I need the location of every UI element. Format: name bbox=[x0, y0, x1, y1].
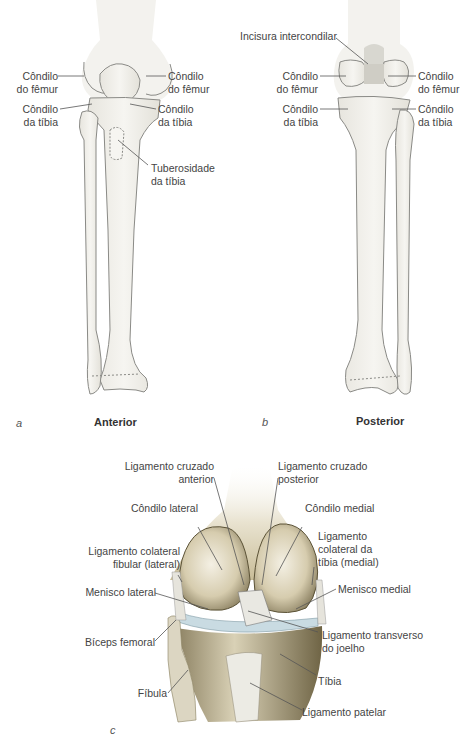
label-lig-cruzado-anterior: Ligamento cruzado anterior bbox=[112, 460, 214, 486]
label-lig-colateral-fibular: Ligamento colateral fibular (lateral) bbox=[60, 545, 180, 571]
anatomy-illustration bbox=[0, 0, 473, 737]
label-condilo-femur-right-a: Côndilo do fêmur bbox=[168, 70, 209, 96]
label-fibula: Fíbula bbox=[110, 687, 167, 700]
label-condilo-tibia-right-a: Côndilo da tíbia bbox=[158, 103, 194, 129]
label-condilo-tibia-left-b: Côndilo da tíbia bbox=[272, 103, 318, 129]
label-biceps-femoral: Bíceps femoral bbox=[60, 636, 155, 649]
label-menisco-lateral: Menisco lateral bbox=[60, 586, 156, 599]
panel-letter-c: c bbox=[110, 724, 116, 736]
label-lig-cruzado-posterior: Ligamento cruzado posterior bbox=[278, 460, 367, 486]
label-condilo-lateral: Côndilo lateral bbox=[110, 502, 198, 515]
label-menisco-medial: Menisco medial bbox=[338, 583, 411, 596]
view-title-anterior: Anterior bbox=[94, 416, 137, 428]
label-condilo-medial: Côndilo medial bbox=[305, 502, 374, 515]
view-title-posterior: Posterior bbox=[356, 415, 404, 427]
panel-letter-a: a bbox=[16, 417, 22, 429]
label-condilo-tibia-left-a: Côndilo da tíbia bbox=[14, 103, 58, 129]
label-tuberosidade: Tuberosidade da tíbia bbox=[151, 162, 215, 188]
label-lig-patelar: Ligamento patelar bbox=[302, 706, 386, 719]
panel-letter-b: b bbox=[262, 416, 268, 428]
label-lig-transverso: Ligamento transverso do joelho bbox=[322, 629, 423, 655]
label-incisura: Incisura intercondilar bbox=[240, 30, 337, 43]
anterior-bones bbox=[79, 0, 172, 394]
label-lig-colateral-tibia: Ligamento colateral da tíbia (medial) bbox=[318, 530, 379, 569]
label-condilo-femur-right-b: Côndilo do fêmur bbox=[418, 70, 459, 96]
label-condilo-femur-left-b: Côndilo do fêmur bbox=[272, 70, 318, 96]
label-condilo-tibia-right-b: Côndilo da tíbia bbox=[418, 103, 454, 129]
label-tibia: Tíbia bbox=[318, 675, 341, 688]
label-condilo-femur-left-a: Côndilo do fêmur bbox=[14, 70, 58, 96]
posterior-bones bbox=[334, 0, 414, 394]
